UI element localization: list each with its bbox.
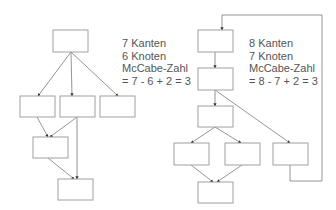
left-edges-label: 7 Kanten bbox=[122, 37, 191, 50]
edge-r4-r7 bbox=[191, 165, 213, 182]
edge-l1-l3 bbox=[71, 52, 72, 96]
left-mccabe-label: McCabe-Zahl bbox=[122, 62, 191, 75]
node-l3 bbox=[60, 96, 95, 117]
right-graph-metrics: 8 Kanten 7 Knoten McCabe-Zahl = 8 - 7 + … bbox=[249, 37, 318, 87]
edge-r3-r4 bbox=[191, 127, 215, 143]
node-r5 bbox=[225, 143, 260, 165]
node-r1 bbox=[198, 30, 233, 52]
node-l4 bbox=[100, 96, 135, 117]
edge-l1-l2 bbox=[38, 52, 71, 96]
right-nodes-label: 7 Knoten bbox=[249, 50, 318, 63]
node-r6 bbox=[273, 143, 308, 165]
right-mccabe-label: McCabe-Zahl bbox=[249, 62, 318, 75]
edge-r5-r7 bbox=[217, 165, 242, 182]
control-flow-diagrams bbox=[0, 0, 336, 210]
left-nodes-label: 6 Knoten bbox=[122, 50, 191, 63]
node-l2 bbox=[20, 96, 55, 117]
edge-l3-l5 bbox=[50, 117, 77, 137]
node-r3 bbox=[198, 106, 233, 127]
edge-r3-r5 bbox=[215, 127, 241, 143]
edge-l2-l5 bbox=[37, 117, 48, 137]
left-graph bbox=[20, 30, 135, 200]
left-graph-metrics: 7 Kanten 6 Knoten McCabe-Zahl = 7 - 6 + … bbox=[122, 37, 191, 87]
right-edges-label: 8 Kanten bbox=[249, 37, 318, 50]
edge-l1-l4 bbox=[71, 52, 118, 96]
edge-l5-l6 bbox=[48, 158, 74, 179]
node-l5 bbox=[33, 137, 68, 158]
node-r2 bbox=[198, 68, 233, 90]
right-mccabe-formula: = 8 - 7 + 2 = 3 bbox=[249, 75, 318, 88]
left-mccabe-formula: = 7 - 6 + 2 = 3 bbox=[122, 75, 191, 88]
node-r7 bbox=[198, 182, 233, 203]
node-l1 bbox=[53, 30, 88, 52]
node-r4 bbox=[174, 143, 209, 165]
node-l6 bbox=[58, 179, 93, 200]
